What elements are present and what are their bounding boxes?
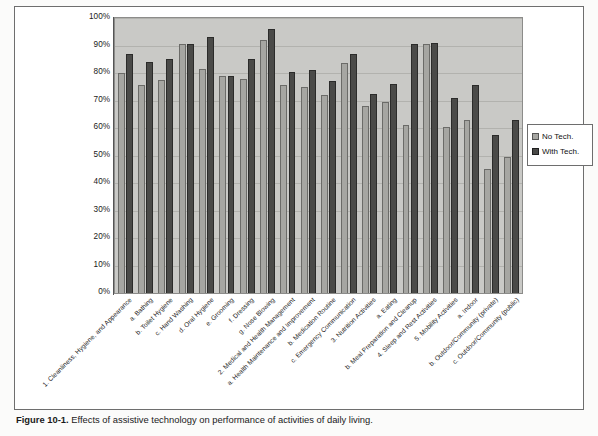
- bar-no-tech: [362, 106, 369, 293]
- bar-no-tech: [464, 120, 471, 293]
- x-axis-labels: 1. Cleanliness, Hygiene, and Appearancea…: [114, 296, 584, 416]
- y-axis-tick: 0%: [70, 288, 110, 296]
- bar-with-tech: [350, 54, 357, 293]
- bar-group: [115, 18, 135, 293]
- bar-with-tech: [248, 59, 255, 293]
- bar-no-tech: [199, 69, 206, 293]
- bar-with-tech: [492, 135, 499, 293]
- y-axis-tick: 30%: [70, 206, 110, 214]
- bar-no-tech: [118, 73, 125, 293]
- bar-with-tech: [268, 29, 275, 293]
- bar-no-tech: [179, 44, 186, 293]
- y-axis-tick: 50%: [70, 151, 110, 159]
- bar-group: [217, 18, 237, 293]
- bar-with-tech: [451, 98, 458, 293]
- figure-page: 0%10%20%30%40%50%60%70%80%90%100% 1. Cle…: [0, 0, 598, 436]
- bar-no-tech: [280, 85, 287, 293]
- y-axis-tick: 80%: [70, 68, 110, 76]
- bar-group: [176, 18, 196, 293]
- bar-no-tech: [382, 102, 389, 293]
- y-axis: 0%10%20%30%40%50%60%70%80%90%100%: [70, 11, 114, 301]
- y-axis-tick: 100%: [70, 13, 110, 21]
- legend-item-with-tech: With Tech.: [532, 144, 589, 159]
- bar-group: [502, 18, 522, 293]
- bar-no-tech: [240, 79, 247, 294]
- bar-group: [339, 18, 359, 293]
- y-axis-tick: 40%: [70, 178, 110, 186]
- bar-no-tech: [423, 44, 430, 293]
- bar-no-tech: [403, 125, 410, 293]
- legend-label-no-tech: No Tech.: [542, 132, 573, 141]
- bar-with-tech: [370, 94, 377, 293]
- bar-group: [319, 18, 339, 293]
- bar-no-tech: [158, 80, 165, 293]
- y-axis-tick: 10%: [70, 261, 110, 269]
- bar-with-tech: [309, 70, 316, 293]
- bar-group: [359, 18, 379, 293]
- bar-group: [420, 18, 440, 293]
- bar-group: [156, 18, 176, 293]
- bar-group: [298, 18, 318, 293]
- figure-frame: 0%10%20%30%40%50%60%70%80%90%100% 1. Cle…: [14, 6, 584, 410]
- legend-swatch-icon-no-tech: [532, 133, 539, 140]
- x-axis-label: 2. Medical and Health Management: [216, 296, 296, 376]
- bar-with-tech: [187, 44, 194, 293]
- bar-no-tech: [504, 157, 511, 293]
- bar-with-tech: [126, 54, 133, 293]
- bar-group: [461, 18, 481, 293]
- bar-with-tech: [390, 84, 397, 293]
- bar-no-tech: [341, 63, 348, 293]
- y-axis-tick: 20%: [70, 233, 110, 241]
- caption-number: Figure 10-1.: [16, 414, 69, 425]
- bar-with-tech: [431, 43, 438, 293]
- legend-label-with-tech: With Tech.: [542, 147, 579, 156]
- bar-with-tech: [228, 76, 235, 293]
- bar-group: [380, 18, 400, 293]
- legend-swatch-icon-with-tech: [532, 148, 539, 155]
- bar-no-tech: [260, 40, 267, 293]
- figure-caption: Figure 10-1. Effects of assistive techno…: [16, 414, 582, 425]
- y-axis-tick: 70%: [70, 96, 110, 104]
- bar-group: [278, 18, 298, 293]
- plot-area: [114, 17, 523, 294]
- bar-with-tech: [166, 59, 173, 293]
- bar-group: [135, 18, 155, 293]
- bar-group: [481, 18, 501, 293]
- bar-with-tech: [411, 44, 418, 293]
- bar-with-tech: [472, 85, 479, 293]
- bar-no-tech: [219, 76, 226, 293]
- bar-no-tech: [484, 169, 491, 293]
- x-axis-label: 1. Cleanliness, Hygiene, and Appearance: [41, 296, 133, 388]
- y-axis-tick: 90%: [70, 41, 110, 49]
- bar-group: [196, 18, 216, 293]
- bar-group: [441, 18, 461, 293]
- bar-with-tech: [512, 120, 519, 293]
- bar-with-tech: [207, 37, 214, 293]
- bar-no-tech: [443, 127, 450, 293]
- bar-with-tech: [146, 62, 153, 293]
- bar-with-tech: [289, 72, 296, 293]
- bar-no-tech: [301, 87, 308, 293]
- bar-no-tech: [138, 85, 145, 293]
- chart-legend: No Tech. With Tech.: [527, 124, 593, 166]
- bar-group: [400, 18, 420, 293]
- bar-series-container: [115, 18, 522, 293]
- bar-group: [257, 18, 277, 293]
- bar-no-tech: [321, 95, 328, 293]
- caption-text: Effects of assistive technology on perfo…: [69, 414, 373, 425]
- y-axis-tick: 60%: [70, 123, 110, 131]
- legend-item-no-tech: No Tech.: [532, 129, 589, 144]
- bar-with-tech: [329, 81, 336, 293]
- bar-group: [237, 18, 257, 293]
